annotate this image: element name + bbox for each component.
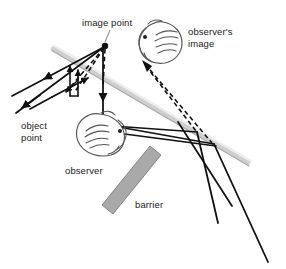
- observer-head-group: [77, 111, 127, 156]
- label-barrier: barrier: [135, 199, 163, 210]
- label-object-point-line1: object: [21, 120, 47, 131]
- reflected-ray-2-tail: [12, 76, 50, 96]
- label-observer: observer: [65, 165, 103, 176]
- label-observers-image-line1: observer's: [188, 26, 233, 37]
- label-image-point: image point: [82, 17, 132, 28]
- image-point-dot: [102, 43, 108, 49]
- image-point-leader-line: [105, 30, 110, 42]
- reflected-ray-1-tail: [16, 95, 40, 113]
- diverging-rays-group: [12, 47, 104, 113]
- label-object-point-line2: point: [21, 132, 42, 143]
- virtual-ray-observer-image-1: [146, 66, 196, 131]
- observer-eye: [118, 129, 122, 133]
- observer-rays-group: [113, 122, 268, 262]
- figure-canvas: image point observer's image object poin…: [0, 0, 286, 269]
- object-point-ray-group: [98, 50, 108, 121]
- optics-reflection-diagram: image point observer's image object poin…: [0, 0, 286, 269]
- observers-image-eye: [143, 35, 147, 39]
- observers-image-head-group: [139, 20, 182, 63]
- label-observers-image-line2: image: [188, 38, 214, 49]
